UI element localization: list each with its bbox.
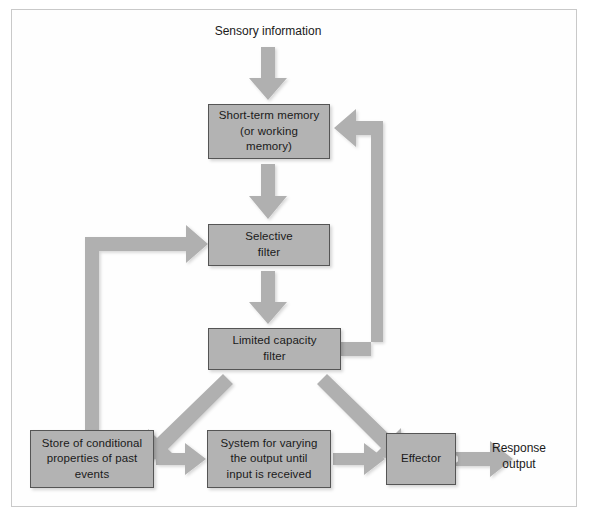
node-selective-filter-label: Selective filter bbox=[242, 229, 296, 260]
label-response-output: Response output bbox=[471, 441, 567, 472]
node-effector-label: Effector bbox=[398, 451, 444, 467]
arrow-stm-to-selective bbox=[249, 164, 287, 219]
node-store-of-conditional-properties-label: Store of conditional properties of past … bbox=[39, 436, 145, 483]
arrow-limited-to-stm-feedback bbox=[334, 109, 383, 356]
arrow-sensory-to-stm bbox=[249, 47, 287, 100]
arrow-store-to-selective-feedback bbox=[85, 225, 208, 430]
node-selective-filter[interactable]: Selective filter bbox=[208, 224, 330, 266]
label-sensory-information: Sensory information bbox=[178, 24, 358, 40]
arrow-selective-to-limited bbox=[249, 271, 287, 324]
node-limited-capacity-filter-label: Limited capacity filter bbox=[229, 333, 319, 364]
node-system-for-varying-output-label: System for varying the output until inpu… bbox=[217, 436, 320, 483]
node-system-for-varying-output[interactable]: System for varying the output until inpu… bbox=[207, 430, 331, 488]
diagram-page: Short-term memory (or working memory) Se… bbox=[0, 0, 597, 525]
node-short-term-memory[interactable]: Short-term memory (or working memory) bbox=[208, 104, 330, 159]
node-effector[interactable]: Effector bbox=[386, 433, 456, 485]
node-store-of-conditional-properties[interactable]: Store of conditional properties of past … bbox=[30, 430, 154, 488]
node-limited-capacity-filter[interactable]: Limited capacity filter bbox=[208, 328, 341, 370]
arrow-system-to-effector bbox=[333, 443, 385, 475]
node-short-term-memory-label: Short-term memory (or working memory) bbox=[216, 108, 323, 155]
